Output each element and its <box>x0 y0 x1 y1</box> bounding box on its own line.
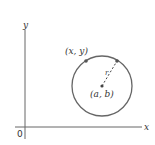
radius-endpoint <box>115 59 119 63</box>
y-axis-label: y <box>22 20 29 30</box>
origin-label: 0 <box>17 129 23 139</box>
x-axis-label: x <box>144 122 149 132</box>
diagram-canvas: y x 0 (x, y) (a, b) r <box>0 0 155 145</box>
point-label: (x, y) <box>65 46 88 56</box>
point-on-circle <box>84 59 88 63</box>
diagram-svg: y x 0 (x, y) (a, b) r <box>0 0 155 145</box>
center-label: (a, b) <box>90 89 114 99</box>
center-point <box>100 84 103 87</box>
